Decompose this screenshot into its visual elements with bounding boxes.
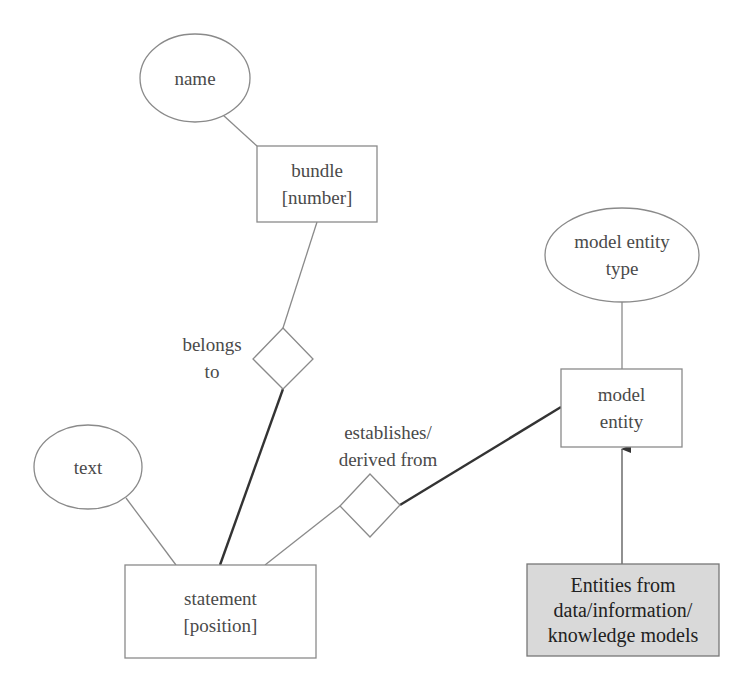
model-entity-line2: entity — [600, 408, 643, 435]
relationship-belongs-to — [253, 328, 313, 389]
relationship-establishes-label: establishes/ derived from — [318, 418, 458, 474]
attribute-name-label: name — [140, 34, 250, 122]
establishes-line2: derived from — [339, 446, 438, 473]
connector-belongs-statement — [220, 389, 283, 565]
entity-model-entity-label: model entity — [561, 369, 682, 447]
model-entity-type-line1: model entity — [574, 228, 670, 255]
bundle-line1: bundle — [291, 157, 343, 184]
attribute-text-label: text — [34, 425, 142, 509]
bundle-line2: [number] — [282, 184, 353, 211]
text-text: text — [74, 454, 103, 481]
relationship-establishes — [340, 474, 400, 537]
establishes-line1: establishes/ — [344, 419, 432, 446]
entity-statement-label: statement [position] — [125, 565, 316, 658]
connector-bundle-belongs — [283, 222, 317, 328]
belongs-line2: to — [205, 358, 220, 385]
model-entity-line1: model — [598, 381, 646, 408]
entity-external-models-label: Entities from data/information/ knowledg… — [527, 564, 719, 656]
external-line2: data/information/ — [554, 598, 693, 623]
model-entity-type-line2: type — [606, 255, 639, 282]
attribute-model-entity-type-label: model entity type — [545, 208, 699, 302]
connector-statement-establishes — [265, 506, 340, 565]
relationship-belongs-to-label: belongs to — [172, 330, 252, 386]
statement-line1: statement — [184, 585, 257, 612]
entity-bundle-label: bundle [number] — [257, 146, 377, 222]
external-line1: Entities from — [571, 573, 676, 598]
belongs-line1: belongs — [182, 331, 241, 358]
external-line3: knowledge models — [548, 623, 699, 648]
name-text: name — [174, 65, 215, 92]
statement-line2: [position] — [184, 612, 258, 639]
